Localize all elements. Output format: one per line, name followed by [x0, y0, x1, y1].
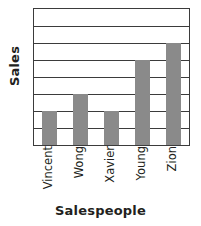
bar-chart: Sales VincentWongXavierYoungZion Salespe…: [0, 0, 201, 226]
plot-area: [33, 8, 190, 146]
y-axis-title: Sales: [4, 26, 24, 106]
x-tick-label-slot: Zion: [157, 146, 188, 200]
x-tick-label-vincent: Vincent: [43, 146, 55, 189]
x-tick-label-wong: Wong: [74, 146, 86, 178]
bar: [166, 43, 181, 145]
bar: [73, 94, 88, 145]
x-axis-tick-labels: VincentWongXavierYoungZion: [33, 146, 190, 200]
x-tick-label-slot: Wong: [64, 146, 95, 200]
bar: [42, 111, 57, 145]
bar: [135, 60, 150, 145]
x-tick-label-slot: Xavier: [95, 146, 126, 200]
x-tick-label-xavier: Xavier: [105, 146, 117, 183]
x-tick-label-slot: Vincent: [33, 146, 64, 200]
x-axis-title: Salespeople: [0, 203, 201, 218]
bars-group: [34, 9, 189, 145]
bar: [104, 111, 119, 145]
x-tick-label-slot: Young: [126, 146, 157, 200]
x-tick-label-zion: Zion: [167, 146, 179, 171]
x-tick-label-young: Young: [136, 146, 148, 180]
